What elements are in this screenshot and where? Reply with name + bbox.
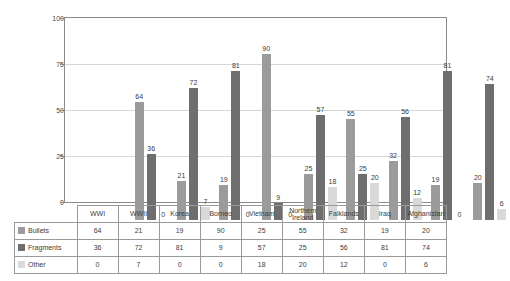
- legend-swatch-icon: [18, 227, 25, 234]
- bar[interactable]: [443, 71, 452, 220]
- table-column-header: WWI: [77, 206, 118, 223]
- table-cell: 25: [282, 240, 323, 257]
- plot-area: 6436021727198109090255718552520325612198…: [64, 17, 447, 203]
- bar-slot: 20: [370, 36, 379, 220]
- legend-entry[interactable]: Other: [15, 257, 78, 274]
- bar-value-label: 18: [329, 178, 337, 186]
- bar[interactable]: [135, 102, 144, 220]
- table-cell: 0: [159, 257, 200, 274]
- bar-value-label: 32: [389, 152, 397, 160]
- bar-group: 552520: [342, 36, 384, 220]
- bar-value-label: 55: [347, 110, 355, 118]
- bar[interactable]: [485, 84, 494, 220]
- table-column-header: Falklands: [323, 206, 364, 223]
- table-cell: 19: [159, 223, 200, 240]
- table-cell: 12: [323, 257, 364, 274]
- table-cell: 74: [405, 240, 446, 257]
- bar-chart: 0255075100 64360217271981090902557185525…: [0, 0, 464, 205]
- bar-value-label: 19: [220, 176, 228, 184]
- table-cell: 81: [364, 240, 405, 257]
- bar-value-label: 0: [458, 211, 462, 219]
- data-legend-table: WWIWWIIKoreaBorneoVietnamNorthern Irelan…: [14, 205, 447, 274]
- bar-slot: 20: [473, 36, 482, 220]
- bar-value-label: 20: [371, 174, 379, 182]
- bar-slot: 90: [262, 36, 271, 220]
- legend-label: Other: [28, 261, 46, 269]
- bar-slot: 0: [455, 36, 464, 220]
- bar[interactable]: [497, 209, 506, 220]
- bar-value-label: 25: [359, 165, 367, 173]
- table-cell: 90: [200, 223, 241, 240]
- table-column-header: Vietnam: [241, 206, 282, 223]
- table-column-header: Afghanistan: [405, 206, 446, 223]
- bar-slot: 19: [431, 36, 440, 220]
- bar-slot: 55: [346, 36, 355, 220]
- bar-value-label: 81: [232, 62, 240, 70]
- y-axis-tick-label: 25: [30, 153, 64, 160]
- bar-value-label: 56: [401, 108, 409, 116]
- legend-entry[interactable]: Fragments: [15, 240, 78, 257]
- legend-swatch-icon: [18, 244, 25, 251]
- bar-group: 21727: [172, 36, 214, 220]
- bar-group: 9090: [257, 36, 299, 220]
- bar[interactable]: [473, 183, 482, 220]
- bar-slot: 0: [159, 36, 168, 220]
- bar[interactable]: [231, 71, 240, 220]
- bar-value-label: 21: [178, 172, 186, 180]
- table-cell: 21: [118, 223, 159, 240]
- legend-swatch-icon: [18, 261, 25, 268]
- table-column-header: Iraq: [364, 206, 405, 223]
- bar-value-label: 57: [317, 106, 325, 114]
- table-row: Bullets642119902555321920: [15, 223, 447, 240]
- bar-slot: 81: [443, 36, 452, 220]
- bar-value-label: 36: [147, 145, 155, 153]
- bar[interactable]: [189, 88, 198, 220]
- table-column-header: Northern Ireland: [282, 206, 323, 223]
- legend-entry[interactable]: Bullets: [15, 223, 78, 240]
- legend-label: Fragments: [28, 244, 61, 252]
- table-cell: 0: [200, 257, 241, 274]
- bar-slot: 74: [485, 36, 494, 220]
- bar[interactable]: [262, 54, 271, 220]
- bar-slot: 9: [274, 36, 283, 220]
- bar-slot: 25: [358, 36, 367, 220]
- bar-group: 19810: [215, 36, 257, 220]
- bar-slot: 7: [201, 36, 210, 220]
- legend-label: Bullets: [28, 227, 49, 235]
- bar-slot: 64: [135, 36, 144, 220]
- table-cell: 64: [77, 223, 118, 240]
- table-body: Bullets642119902555321920Fragments367281…: [15, 223, 447, 274]
- table-column-header: Borneo: [200, 206, 241, 223]
- bar-slot: 56: [401, 36, 410, 220]
- table-column-header: WWII: [118, 206, 159, 223]
- table-cell: 72: [118, 240, 159, 257]
- table-cell: 81: [159, 240, 200, 257]
- bar-value-label: 6: [500, 200, 504, 208]
- table-header-row: WWIWWIIKoreaBorneoVietnamNorthern Irelan…: [15, 206, 447, 223]
- y-axis-tick-label: 50: [30, 107, 64, 114]
- bar-group: 19810: [426, 36, 468, 220]
- bar-slot: 0: [243, 36, 252, 220]
- bar-value-label: 64: [135, 93, 143, 101]
- bar-group: 64360: [130, 36, 172, 220]
- table-cell: 19: [364, 223, 405, 240]
- table-cell: 0: [77, 257, 118, 274]
- table-cell: 25: [241, 223, 282, 240]
- bar-slot: 6: [497, 36, 506, 220]
- bar-value-label: 72: [190, 79, 198, 87]
- y-axis-tick-label: 75: [30, 61, 64, 68]
- bar-value-label: 20: [474, 174, 482, 182]
- table-cell: 6: [405, 257, 446, 274]
- table-cell: 0: [364, 257, 405, 274]
- y-axis-tick-label: 100: [30, 15, 64, 22]
- bar-value-label: 81: [444, 62, 452, 70]
- bar-value-label: 12: [413, 189, 421, 197]
- bar-value-label: 25: [305, 165, 313, 173]
- table-column-header: Korea: [159, 206, 200, 223]
- table-cell: 18: [241, 257, 282, 274]
- table-cell: 55: [282, 223, 323, 240]
- table-cell: 56: [323, 240, 364, 257]
- bar-slot: 72: [189, 36, 198, 220]
- bar-value-label: 90: [262, 45, 270, 53]
- bar-group: 20746: [469, 36, 510, 220]
